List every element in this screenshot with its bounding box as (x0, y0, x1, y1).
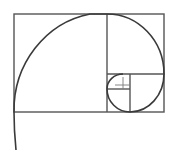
outer-rectangle (14, 14, 164, 112)
diagram-canvas (0, 0, 180, 165)
golden-spiral-diagram: Golden spiral in Fibonacci rectangle (0, 0, 180, 165)
golden-spiral (14, 14, 164, 150)
